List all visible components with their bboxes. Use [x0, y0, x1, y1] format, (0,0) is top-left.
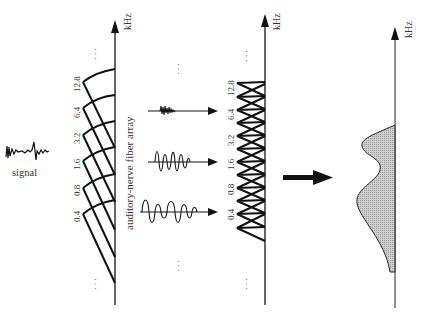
fan-ellipsis-top: · · · [91, 48, 100, 60]
filter-tick-6.4: 6.4 [226, 108, 236, 120]
fan-tick-6.4: 6.4 [72, 106, 82, 118]
filter-tick-1.6: 1.6 [226, 158, 236, 170]
mid-frequency-component [148, 152, 218, 172]
axis-1-unit-label: kHz [122, 13, 133, 30]
fan-ellipsis-bottom: · · · [91, 278, 100, 290]
filter-tick-0.4: 0.4 [226, 208, 236, 220]
axis-2-unit-label: kHz [271, 13, 282, 30]
axis-3-unit-label: kHz [403, 21, 414, 38]
middle-ellipsis-top: · · · [174, 63, 183, 75]
low-frequency-component [140, 200, 218, 223]
filter-tick-labels: 12.8 6.4 3.2 1.6 0.8 0.4 [226, 80, 236, 220]
tuning-curve-fan [83, 69, 115, 283]
excitation-pattern [357, 125, 395, 272]
frequency-axis-1 [111, 20, 119, 305]
fan-tick-0.4: 0.4 [72, 210, 82, 222]
filter-ellipsis-bottom: · · · [242, 278, 251, 290]
signal-waveform [6, 142, 49, 160]
fiber-array-label: auditory-nerve fiber array [123, 116, 135, 230]
fan-tick-labels: 12.8 6.4 3.2 1.6 0.8 0.4 [72, 76, 82, 222]
diagram-canvas: signal kHz 12.8 6.4 3.2 1.6 0.8 0.4 · · … [0, 0, 424, 327]
high-frequency-component [148, 106, 218, 115]
signal-label: signal [12, 167, 37, 178]
filter-tick-12.8: 12.8 [226, 80, 236, 96]
middle-ellipsis-bottom: · · · [174, 260, 183, 272]
filter-tick-0.8: 0.8 [226, 183, 236, 195]
fan-tick-12.8: 12.8 [72, 76, 82, 92]
output-arrow [283, 170, 333, 185]
filter-ellipsis-top: · · · [242, 50, 251, 62]
filter-tick-3.2: 3.2 [226, 135, 236, 146]
fan-tick-1.6: 1.6 [72, 158, 82, 170]
fan-tick-3.2: 3.2 [72, 133, 82, 144]
filter-bank-triangles [237, 82, 265, 241]
fan-tick-0.8: 0.8 [72, 184, 82, 196]
